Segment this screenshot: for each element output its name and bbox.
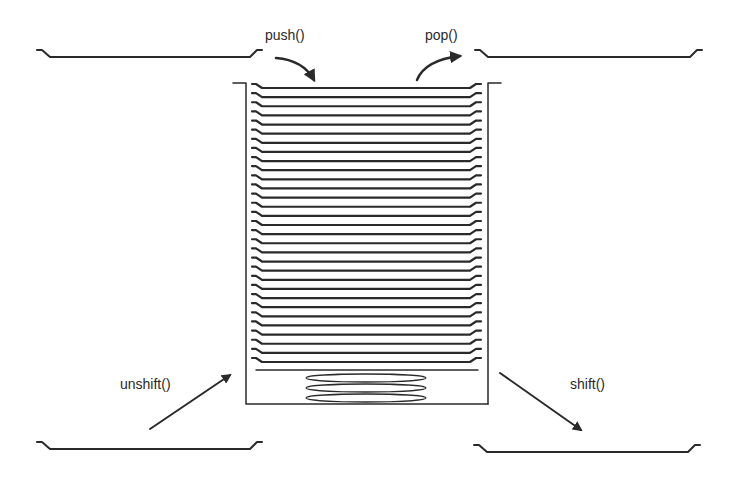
bottom-plate: [306, 384, 426, 392]
plate: [252, 258, 481, 262]
plate: [252, 212, 481, 216]
plate: [252, 184, 481, 188]
plate: [252, 239, 481, 243]
plate: [252, 248, 481, 252]
plate: [252, 93, 481, 97]
plate: [252, 166, 481, 170]
plate: [252, 111, 481, 115]
plate: [252, 175, 481, 179]
shift-arrow: [500, 373, 581, 430]
container-right-wall: [488, 83, 501, 404]
plate: [252, 139, 481, 143]
plate: [252, 340, 481, 344]
plate: [252, 331, 481, 335]
plate: [252, 203, 481, 207]
bottom-plate: [306, 394, 426, 402]
plate: [252, 276, 481, 280]
stack-diagram: push() pop() unshift() shift(): [0, 0, 738, 479]
shift-label: shift(): [570, 376, 605, 392]
plate: [252, 157, 481, 161]
plate: [252, 130, 481, 134]
plate: [252, 303, 481, 307]
shelf-bottom-right: [474, 445, 700, 452]
pop-label: pop(): [425, 27, 458, 43]
bottom-stack: [306, 374, 426, 402]
plate: [252, 312, 481, 316]
plate-stack: [252, 84, 481, 362]
unshift-label: unshift(): [120, 376, 171, 392]
plate: [252, 321, 481, 325]
plate: [252, 194, 481, 198]
plate: [252, 358, 481, 362]
plate: [252, 285, 481, 289]
plate: [252, 267, 481, 271]
plate: [252, 349, 481, 353]
push-label: push(): [265, 27, 305, 43]
plate: [252, 102, 481, 106]
plate: [252, 221, 481, 225]
push-arrow: [276, 58, 314, 80]
shelf-bottom-left: [37, 442, 262, 449]
plate: [252, 148, 481, 152]
plate: [252, 294, 481, 298]
shelf-top-left: [37, 50, 262, 57]
pop-arrow: [417, 56, 460, 80]
plate: [252, 230, 481, 234]
bottom-plate: [306, 374, 426, 382]
plate: [252, 84, 481, 88]
plate: [252, 121, 481, 125]
shelf-top-right: [475, 50, 702, 57]
